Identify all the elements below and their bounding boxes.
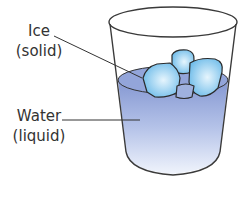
ice-label: Ice (solid): [14, 23, 64, 60]
ice-label-state: (solid): [14, 43, 64, 60]
ice-leader-line: [54, 36, 142, 78]
water-label-state: (liquid): [8, 128, 70, 145]
ice-cube-left: [143, 63, 180, 97]
water-label-name: Water: [8, 108, 70, 125]
ice-cubes: [143, 50, 222, 99]
ice-label-name: Ice: [14, 23, 64, 40]
glass-rim: [109, 7, 237, 37]
water-label: Water (liquid): [8, 108, 70, 145]
ice-cube-middle: [176, 84, 194, 99]
